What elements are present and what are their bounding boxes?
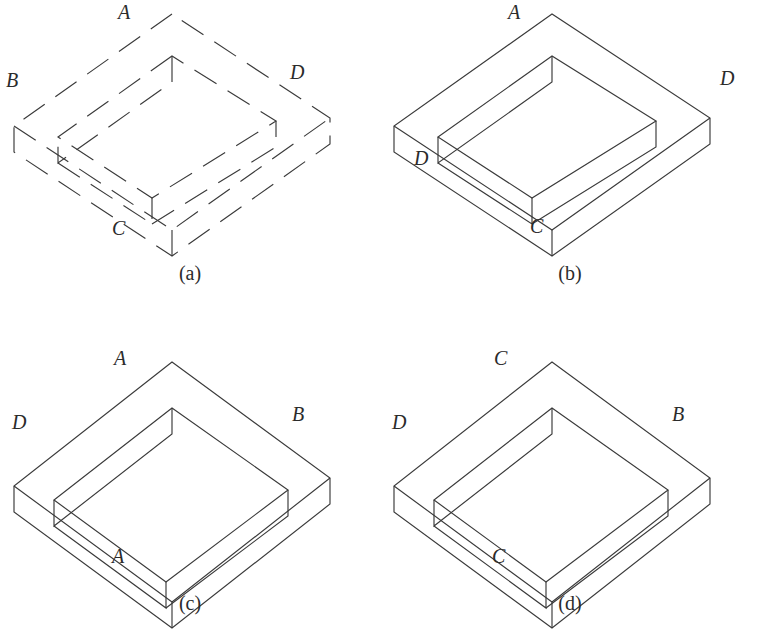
vertex-label-c-left: D (12, 412, 26, 432)
frame-edge-path (532, 121, 656, 224)
vertex-label-c-bottom: A (112, 546, 124, 566)
vertex-label-a-right: D (290, 62, 304, 82)
vertex-label-b-top: A (508, 2, 520, 22)
frame-edge-path (58, 56, 172, 163)
figure-caption-c: (c) (0, 592, 380, 615)
figure-panel-a: A B C D (a) (0, 0, 380, 320)
vertex-label-a-bottom: C (112, 218, 125, 238)
figure-panel-b: A D C D (b) (380, 0, 760, 320)
frame-edge-path (394, 362, 710, 628)
figure-panel-d: C D C B (d) (380, 320, 760, 640)
vertex-label-d-bottom: C (492, 546, 505, 566)
frame-edge-path (394, 478, 710, 602)
frame-edge-path (14, 478, 330, 602)
frame-edge-path (434, 408, 552, 526)
vertex-label-c-right: B (292, 404, 304, 424)
vertex-label-a-top: A (118, 2, 130, 22)
figure-caption-d: (d) (380, 592, 760, 615)
frame-edge-path (58, 163, 152, 224)
vertex-label-d-left: D (392, 412, 406, 432)
vertex-label-a-left: B (6, 70, 18, 90)
vertex-label-d-right: B (672, 404, 684, 424)
vertex-label-b-right: D (720, 68, 734, 88)
frame-edge-path (546, 490, 668, 608)
frame-edge-path (152, 121, 276, 224)
vertex-label-b-left: D (414, 148, 428, 168)
vertex-label-d-top: C (494, 348, 507, 368)
frame-edge-path (438, 163, 532, 224)
figure-caption-b: (b) (380, 262, 760, 285)
frame-edge-path (166, 490, 288, 608)
frame-edge-path (54, 408, 172, 526)
vertex-label-b-bottom: C (530, 216, 543, 236)
figure-caption-a: (a) (0, 262, 380, 285)
frame-edge-path (438, 56, 552, 163)
vertex-label-c-top: A (114, 348, 126, 368)
figure-panel-c: A D A B (c) (0, 320, 380, 640)
frame-edge-path (14, 362, 330, 628)
figure-sheet: A B C D (a) A D C D (b) A D A B (c) C D … (0, 0, 760, 640)
